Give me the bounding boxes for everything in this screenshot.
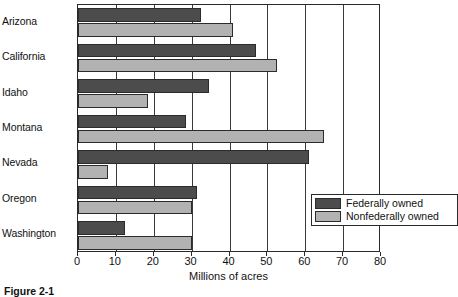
- category-label-idaho: Idaho: [2, 87, 76, 98]
- gridline-40: [230, 5, 231, 251]
- x-tick-label-80: 80: [365, 255, 395, 267]
- category-label-california: California: [2, 51, 76, 62]
- bar-oregon-federal: [78, 186, 197, 200]
- x-tick-label-70: 70: [327, 255, 357, 267]
- category-label-arizona: Arizona: [2, 16, 76, 27]
- plot-area: Federally owned Nonfederally owned: [77, 4, 380, 252]
- x-tick-label-20: 20: [138, 255, 168, 267]
- bar-california-federal: [78, 44, 256, 58]
- category-axis-labels: ArizonaCaliforniaIdahoMontanaNevadaOrego…: [0, 4, 76, 252]
- bar-washington-nonfederal: [78, 236, 192, 250]
- bar-arizona-federal: [78, 8, 201, 22]
- x-tick-label-40: 40: [214, 255, 244, 267]
- gridline-50: [267, 5, 268, 251]
- x-tick-label-30: 30: [176, 255, 206, 267]
- gridline-30: [192, 5, 193, 251]
- bar-idaho-nonfederal: [78, 94, 148, 108]
- chart-legend: Federally owned Nonfederally owned: [311, 194, 458, 226]
- x-axis-title: Millions of acres: [77, 270, 380, 282]
- figure-caption: Figure 2-1: [4, 285, 54, 297]
- x-tick-label-10: 10: [100, 255, 130, 267]
- bar-washington-federal: [78, 221, 125, 235]
- bar-montana-federal: [78, 115, 186, 129]
- category-label-nevada: Nevada: [2, 157, 76, 168]
- x-tick-label-50: 50: [251, 255, 281, 267]
- category-label-washington: Washington: [2, 228, 76, 239]
- bar-oregon-nonfederal: [78, 201, 192, 215]
- bar-california-nonfederal: [78, 59, 277, 73]
- bar-nevada-federal: [78, 150, 309, 164]
- legend-item-nonfederal: Nonfederally owned: [315, 210, 454, 223]
- legend-swatch-federal-icon: [315, 198, 341, 209]
- x-tick-label-60: 60: [289, 255, 319, 267]
- bar-nevada-nonfederal: [78, 165, 108, 179]
- legend-item-federal: Federally owned: [315, 197, 454, 210]
- legend-swatch-nonfederal-icon: [315, 211, 341, 222]
- legend-label-nonfederal: Nonfederally owned: [346, 211, 439, 222]
- bar-idaho-federal: [78, 79, 209, 93]
- category-label-montana: Montana: [2, 122, 76, 133]
- bar-arizona-nonfederal: [78, 23, 233, 37]
- category-label-oregon: Oregon: [2, 193, 76, 204]
- gridline-60: [305, 5, 306, 251]
- x-tick-label-0: 0: [62, 255, 92, 267]
- bar-montana-nonfederal: [78, 130, 324, 144]
- legend-label-federal: Federally owned: [346, 198, 423, 209]
